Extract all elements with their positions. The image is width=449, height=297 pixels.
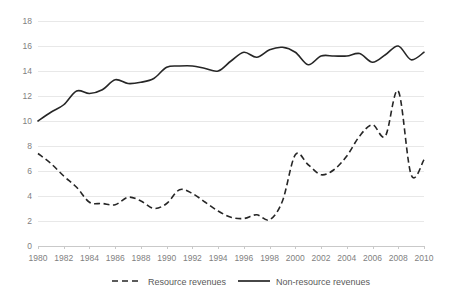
y-tick-label: 14 bbox=[23, 66, 33, 76]
x-tick-label: 1998 bbox=[260, 253, 279, 263]
x-tick-label: 1984 bbox=[80, 253, 99, 263]
x-tick-label: 1986 bbox=[106, 253, 125, 263]
y-tick-label: 4 bbox=[27, 191, 32, 201]
x-tick-label: 2010 bbox=[415, 253, 434, 263]
x-tick-label: 1982 bbox=[54, 253, 73, 263]
x-tick-label: 1996 bbox=[234, 253, 253, 263]
x-tick-label: 1992 bbox=[183, 253, 202, 263]
x-tick-label: 2002 bbox=[312, 253, 331, 263]
chart-legend: Resource revenuesNon-resource revenues bbox=[112, 277, 371, 287]
x-tick-label: 1988 bbox=[131, 253, 150, 263]
y-tick-label: 2 bbox=[27, 216, 32, 226]
x-tick-label: 1990 bbox=[157, 253, 176, 263]
x-tick-label: 1980 bbox=[29, 253, 48, 263]
legend-label: Resource revenues bbox=[148, 277, 227, 287]
x-tick-label: 2008 bbox=[389, 253, 408, 263]
line-chart: 024681012141618 198019821984198619881990… bbox=[0, 0, 449, 297]
gridlines-group bbox=[38, 22, 424, 247]
series-line-non-resource bbox=[38, 46, 424, 121]
y-tick-label: 6 bbox=[27, 166, 32, 176]
y-tick-label: 8 bbox=[27, 141, 32, 151]
y-tick-label: 18 bbox=[23, 16, 33, 26]
y-tick-label: 0 bbox=[27, 241, 32, 251]
x-tick-label: 1994 bbox=[209, 253, 228, 263]
x-tick-label: 2000 bbox=[286, 253, 305, 263]
y-tick-label: 16 bbox=[23, 41, 33, 51]
legend-label: Non-resource revenues bbox=[276, 277, 371, 287]
y-tick-label: 12 bbox=[23, 91, 33, 101]
x-tick-label: 2006 bbox=[363, 253, 382, 263]
y-axis-tick-labels: 024681012141618 bbox=[23, 16, 33, 251]
x-axis-tick-labels: 1980198219841986198819901992199419961998… bbox=[29, 253, 434, 263]
series-group bbox=[38, 46, 424, 220]
x-tick-label: 2004 bbox=[337, 253, 356, 263]
series-line-resource bbox=[38, 90, 424, 220]
y-tick-label: 10 bbox=[23, 116, 33, 126]
chart-canvas: 024681012141618 198019821984198619881990… bbox=[0, 0, 449, 297]
